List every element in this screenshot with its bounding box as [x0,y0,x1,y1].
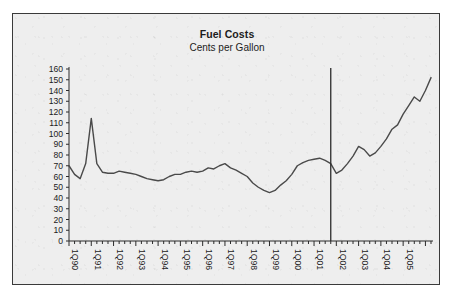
y-axis-tick-label: 140 [49,86,64,96]
y-axis-tick-label: 50 [53,182,63,192]
x-axis-tick-label: 1Q92 [115,249,125,270]
y-axis-tick-label: 60 [53,172,63,182]
y-axis-tick-label: 110 [49,118,63,128]
y-axis-tick-label: 0 [58,236,63,246]
x-axis-tick-label: 1Q95 [182,249,192,270]
x-axis-tick-label: 1Q03 [360,249,370,270]
x-axis-tick-label: 1Q93 [137,249,147,270]
fuel-cost-series [69,78,431,193]
page-title: Fuel Costs [13,28,441,41]
x-axis-tick-label: 1Q05 [405,249,415,270]
chart-title-block: Fuel Costs Cents per Gallon [13,28,441,54]
x-axis-tick-label: 1Q99 [271,249,281,270]
y-axis-tick-label: 150 [49,75,64,85]
chart-frame: Fuel Costs Cents per Gallon 010203040506… [12,13,440,285]
y-axis-tick-label: 120 [49,107,64,117]
x-axis-tick-label: 1Q04 [382,249,392,270]
chart-subtitle: Cents per Gallon [13,41,441,54]
x-axis-tick-label: 1Q96 [204,249,214,270]
y-axis-tick-label: 40 [53,193,63,203]
x-axis-tick-label: 1Q02 [338,249,348,270]
x-axis-tick-label: 1Q01 [315,249,325,270]
data-line [69,78,431,193]
y-axis-tick-label: 130 [49,96,64,106]
y-axis-tick-label: 10 [53,225,63,235]
y-axis-tick-label: 70 [53,161,63,171]
x-axis-tick-label: 1Q91 [93,249,103,270]
y-axis: 0102030405060708090100110120130140150160 [49,64,69,246]
x-axis-tick-label: 1Q97 [226,249,236,270]
y-axis-tick-label: 100 [49,129,64,139]
x-axis-tick-label: 1Q00 [293,249,303,270]
y-axis-tick-label: 20 [53,215,63,225]
line-chart-plot: 0102030405060708090100110120130140150160… [13,14,441,286]
x-axis-tick-label: 1Q94 [160,249,170,270]
x-axis-tick-label: 1Q98 [249,249,259,270]
x-axis-tick-label: 1Q90 [70,249,80,270]
y-axis-tick-label: 80 [53,150,63,160]
y-axis-tick-label: 90 [53,139,63,149]
y-axis-tick-label: 30 [53,204,63,214]
chart-figure: Fuel Costs Cents per Gallon 010203040506… [0,0,455,300]
y-axis-tick-label: 160 [49,64,64,74]
x-axis: 1Q901Q911Q921Q931Q941Q951Q961Q971Q981Q99… [69,241,433,270]
